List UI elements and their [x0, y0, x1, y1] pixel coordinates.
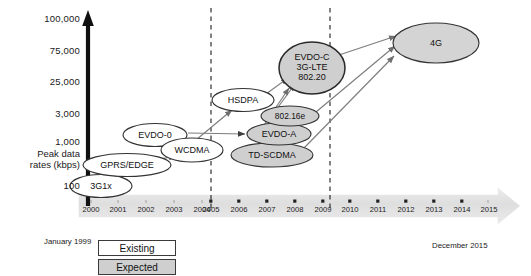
end-date-note: December 2015 [432, 241, 487, 250]
technology-nodes [70, 23, 479, 198]
x-tick-2005-label: 2005 [196, 205, 226, 214]
y-tick-100: 100 [8, 180, 80, 191]
y-tick-25000: 25,000 [8, 76, 80, 87]
node-hsdpa [212, 89, 274, 112]
technology-evolution-figure: 100,000 75,000 25,000 3,000 1,000 100 Pe… [0, 0, 531, 276]
x-tick-2010: 2010 [335, 205, 365, 214]
edge-wcdma-to-hsdpa [196, 110, 232, 140]
x-tick-2009: 2009 [308, 205, 338, 214]
x-tick-2007: 2007 [252, 205, 282, 214]
y-tick-1000: 1,000 [8, 136, 80, 147]
legend-existing[interactable]: Existing [98, 240, 176, 256]
x-tick-2014: 2014 [447, 205, 477, 214]
x-tick-2002: 2002 [131, 205, 161, 214]
y-tick-3000: 3,000 [8, 108, 80, 119]
x-tick-2003: 2003 [159, 205, 189, 214]
x-tick-2000: 2000 [76, 205, 106, 214]
x-tick-2008: 2008 [280, 205, 310, 214]
node-wcdma [161, 138, 223, 162]
edge-evdo0-to-evdoa [188, 133, 245, 134]
x-tick-2001: 2001 [103, 205, 133, 214]
node-4g [393, 23, 479, 63]
x-tick-2012: 2012 [391, 205, 421, 214]
y-axis-title: Peak data rates (kbps) [0, 148, 80, 170]
node-evdo-a [247, 123, 311, 145]
x-tick-2011: 2011 [363, 205, 393, 214]
x-tick-2013: 2013 [419, 205, 449, 214]
x-tick-2015: 2015 [474, 205, 504, 214]
start-date-note: January 1999 [44, 237, 91, 246]
node-802-16e [261, 106, 319, 126]
node-td-scdma [231, 143, 313, 167]
node-gprs-edge [83, 154, 171, 177]
x-tick-2006: 2006 [224, 205, 254, 214]
node-evdo-c-3g-lte-802-20 [279, 42, 345, 94]
y-tick-75000: 75,000 [8, 45, 80, 56]
legend-expected[interactable]: Expected [98, 259, 176, 275]
y-tick-100000: 100,000 [8, 13, 80, 24]
